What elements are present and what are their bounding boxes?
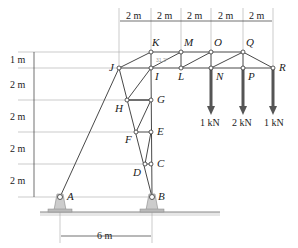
node-label-p: P <box>247 70 255 82</box>
dim-left-4: 2 m <box>10 143 26 154</box>
dim-top-3: 2 m <box>187 10 203 21</box>
node-label-e: E <box>156 125 164 137</box>
dim-left-1: 1 m <box>10 54 26 65</box>
node-label-d: D <box>132 166 141 178</box>
dim-left-5: 2 m <box>10 175 26 186</box>
node-label-n: N <box>215 70 224 82</box>
truss-svg: 2 m 2 m 2 m 2 m 2 m 1 m 2 m 2 m 2 m 2 m … <box>0 0 298 248</box>
ground <box>40 212 220 216</box>
node-label-g: G <box>157 93 165 105</box>
node-label-o: O <box>214 36 222 48</box>
node-label-f: F <box>124 133 132 145</box>
load-label-p: 2 kN <box>232 117 252 128</box>
dim-bottom: 6 m <box>97 230 113 241</box>
node-label-l: L <box>177 70 184 82</box>
node-label-k: K <box>151 36 160 48</box>
dim-top-2: 2 m <box>157 10 173 21</box>
node-label-c: C <box>157 157 165 169</box>
node-label-b: B <box>158 190 165 202</box>
dim-top-5: 2 m <box>249 10 265 21</box>
dim-left-3: 2 m <box>10 111 26 122</box>
node-label-i: I <box>154 70 160 82</box>
node-label-q: Q <box>246 36 254 48</box>
angle-note: 31.2° <box>156 57 168 63</box>
load-label-n: 1 kN <box>200 117 220 128</box>
node-label-m: M <box>183 36 194 48</box>
node-label-j: J <box>109 61 115 73</box>
truss-diagram: 2 m 2 m 2 m 2 m 2 m 1 m 2 m 2 m 2 m 2 m … <box>0 0 298 248</box>
node-label-a: A <box>66 190 74 202</box>
dim-left-2: 2 m <box>10 79 26 90</box>
node-label-h: H <box>114 102 124 114</box>
dim-top-4: 2 m <box>218 10 234 21</box>
dim-top-1: 2 m <box>126 10 142 21</box>
node-label-r: R <box>278 61 286 73</box>
load-label-r: 1 kN <box>264 117 284 128</box>
